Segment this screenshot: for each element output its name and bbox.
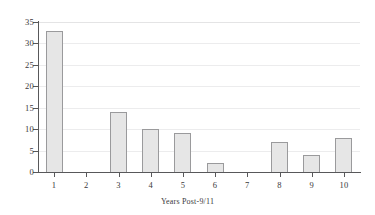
bar [46, 31, 63, 173]
x-axis-tick [183, 173, 184, 177]
gridline [38, 65, 360, 66]
bar [110, 112, 127, 173]
x-axis-tick-label: 6 [213, 181, 217, 190]
bar [303, 155, 320, 173]
gridline [38, 108, 360, 109]
y-axis-tick-label: 25 [25, 61, 34, 70]
y-axis-tick-label: 10 [25, 125, 34, 134]
plot-area [38, 22, 360, 172]
bar [271, 142, 288, 173]
x-axis-tick [86, 173, 87, 177]
x-axis-title: Years Post-9/11 [0, 197, 375, 206]
x-axis-tick-label: 3 [116, 181, 120, 190]
bar-chart: 05101520253035 12345678910 Years Post-9/… [0, 0, 375, 215]
y-axis-tick-label: 35 [25, 18, 34, 27]
y-axis-tick-label: 0 [30, 168, 34, 177]
x-axis-tick [119, 173, 120, 177]
bar [174, 133, 191, 173]
x-axis-tick-label: 7 [245, 181, 249, 190]
x-axis-tick [215, 173, 216, 177]
x-axis-tick-label: 9 [309, 181, 313, 190]
y-axis-tick-label: 5 [30, 147, 34, 156]
gridline [38, 43, 360, 44]
y-axis-tick-label: 30 [25, 39, 34, 48]
x-axis-tick-label: 1 [52, 181, 56, 190]
gridline [38, 129, 360, 130]
x-axis-tick [54, 173, 55, 177]
bar [335, 138, 352, 173]
y-axis-tick-label: 20 [25, 82, 34, 91]
x-axis-tick [280, 173, 281, 177]
x-axis-tick-label: 2 [84, 181, 88, 190]
x-axis-tick-label: 5 [181, 181, 185, 190]
x-axis-tick [344, 173, 345, 177]
bar [142, 129, 159, 173]
x-axis-tick [151, 173, 152, 177]
x-axis-tick [247, 173, 248, 177]
x-axis-tick-label: 4 [148, 181, 152, 190]
x-axis-tick-label: 10 [339, 181, 348, 190]
gridline [38, 86, 360, 87]
gridline [38, 151, 360, 152]
y-axis-line [38, 21, 39, 173]
y-axis-tick-label: 15 [25, 104, 34, 113]
x-axis-tick-label: 8 [277, 181, 281, 190]
gridline [38, 22, 360, 23]
x-axis-tick [312, 173, 313, 177]
